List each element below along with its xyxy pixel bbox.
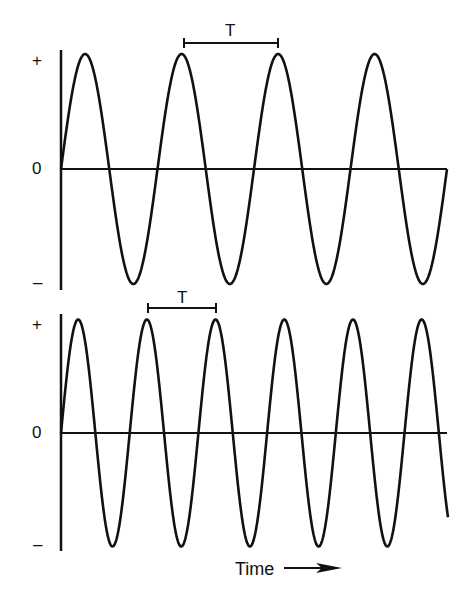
time-axis-label: Time [235, 560, 274, 578]
diagram-canvas [0, 0, 471, 600]
time-arrow [284, 563, 342, 573]
top-period-label: T [225, 22, 235, 39]
top-plus-label: + [32, 52, 42, 69]
bottom-zero-label: 0 [32, 424, 41, 441]
top-zero-label: 0 [32, 160, 41, 177]
bottom-minus-label: – [33, 536, 42, 553]
bottom-plus-label: + [32, 316, 42, 333]
top-wave-plot [61, 38, 447, 290]
top-minus-label: – [33, 274, 42, 291]
bottom-period-label: T [177, 289, 187, 306]
bottom-wave-plot [61, 303, 448, 551]
